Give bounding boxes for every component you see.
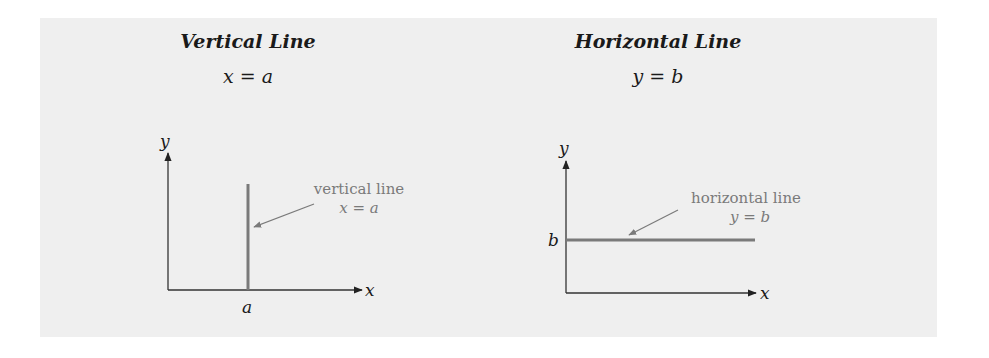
vertical-line-graph: y x a vertical line x = a (159, 131, 404, 317)
annotation-text: horizontal line (691, 189, 801, 207)
tick-label-b: b (548, 230, 559, 250)
y-axis-label: y (159, 131, 170, 151)
horizontal-line-graph: y x b horizontal line y = b (548, 138, 801, 303)
y-axis-label: y (558, 138, 569, 158)
annotation-arrow-icon (254, 204, 314, 227)
x-axis-label: x (760, 283, 770, 303)
annotation-equation: x = a (339, 199, 379, 217)
x-axis-label: x (365, 280, 375, 300)
annotation-arrow-icon (629, 210, 678, 235)
tick-label-a: a (242, 297, 252, 317)
annotation-equation: y = b (729, 208, 770, 226)
diagram-canvas: y x a vertical line x = a y x b horizont… (0, 0, 989, 358)
annotation-text: vertical line (313, 180, 405, 198)
